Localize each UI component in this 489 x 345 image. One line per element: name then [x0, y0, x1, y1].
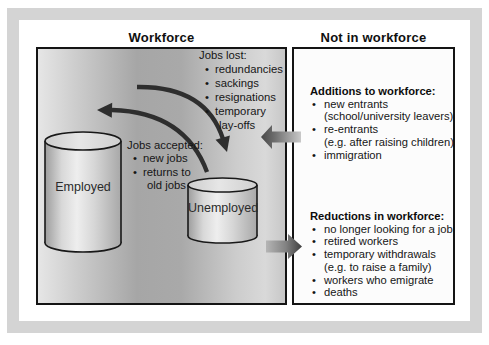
bullet-dot: •: [312, 248, 324, 261]
bullet-dot: •: [312, 123, 324, 136]
bullet-dot: •: [133, 152, 143, 165]
bullet-dot: •: [312, 149, 324, 162]
list-item-text: re-entrants: [324, 123, 378, 136]
list-item-text: no longer looking for a job: [324, 223, 453, 236]
jobs-accepted-list: Jobs accepted: • new jobs • returns to o…: [127, 139, 203, 193]
list-item-text: (e.g. after raising children): [324, 136, 454, 149]
bullet-dot: •: [312, 235, 324, 248]
bullet-dot: •: [205, 77, 215, 91]
jobs-lost-heading: Jobs lost:: [199, 49, 283, 63]
list-item: • retired workers: [310, 235, 453, 248]
list-item: • deaths: [310, 286, 453, 299]
list-item-text: workers who emigrate: [324, 274, 433, 287]
unemployed-label: Unemployed: [188, 201, 257, 215]
list-item-text: (e.g. to raise a family): [324, 261, 432, 274]
list-item: (e.g. after raising children): [310, 136, 454, 149]
list-item: • returns to: [127, 166, 203, 179]
list-item: • temporary: [199, 105, 283, 119]
list-item-text: immigration: [324, 149, 382, 162]
list-item: • immigration: [310, 149, 454, 162]
list-item: • workers who emigrate: [310, 274, 453, 287]
list-item-text: new entrants: [324, 98, 388, 111]
workforce-box: Jobs lost: • redundancies • sackings • r…: [36, 47, 287, 305]
jobs-lost-list: Jobs lost: • redundancies • sackings • r…: [199, 49, 283, 132]
additions-list: Additions to workforce: • new entrants (…: [310, 85, 454, 161]
list-item: • temporary withdrawals: [310, 248, 453, 261]
list-item: • new entrants: [310, 98, 454, 111]
not-in-workforce-panel-title: Not in workforce: [292, 30, 455, 45]
list-item: • re-entrants: [310, 123, 454, 136]
list-item: (school/university leavers): [310, 110, 454, 123]
list-item-text: retired workers: [324, 235, 398, 248]
additions-heading: Additions to workforce:: [310, 85, 454, 98]
list-item-text: old jobs: [147, 179, 186, 192]
bullet-dot: •: [312, 286, 324, 299]
list-item-text: (school/university leavers): [324, 110, 453, 123]
bullet-dot: •: [312, 98, 324, 111]
not-in-workforce-box: Additions to workforce: • new entrants (…: [292, 47, 455, 305]
list-item-text: new jobs: [143, 152, 188, 165]
list-item: • sackings: [199, 77, 283, 91]
employed-label: Employed: [45, 180, 121, 194]
bullet-dot: •: [205, 91, 215, 105]
bullet-dot: •: [205, 63, 215, 77]
bullet-dot: •: [205, 105, 215, 119]
jobs-accepted-heading: Jobs accepted:: [127, 139, 203, 152]
list-item-text: temporary withdrawals: [324, 248, 436, 261]
list-item-text: temporary: [215, 105, 266, 119]
bullet-dot: •: [133, 166, 143, 179]
list-item: old jobs: [127, 179, 203, 192]
reductions-arrow: [266, 233, 303, 260]
workforce-flow-diagram: Workforce Not in workforce: [0, 0, 489, 345]
list-item-text: lay-offs: [219, 119, 255, 133]
list-item-text: returns to: [143, 166, 191, 179]
list-item-text: resignations: [215, 91, 276, 105]
list-item-text: deaths: [324, 286, 358, 299]
reductions-heading: Reductions in workforce:: [310, 210, 453, 223]
list-item: (e.g. to raise a family): [310, 261, 453, 274]
bullet-dot: •: [312, 274, 324, 287]
list-item-text: redundancies: [215, 63, 283, 77]
list-item-text: sackings: [215, 77, 259, 91]
reductions-list: Reductions in workforce: • no longer loo…: [310, 210, 453, 299]
workforce-panel-title: Workforce: [36, 30, 287, 45]
list-item: • resignations: [199, 91, 283, 105]
list-item: • new jobs: [127, 152, 203, 165]
additions-arrow: [261, 124, 301, 150]
list-item: • no longer looking for a job: [310, 223, 453, 236]
list-item: • redundancies: [199, 63, 283, 77]
bullet-dot: •: [312, 223, 324, 236]
